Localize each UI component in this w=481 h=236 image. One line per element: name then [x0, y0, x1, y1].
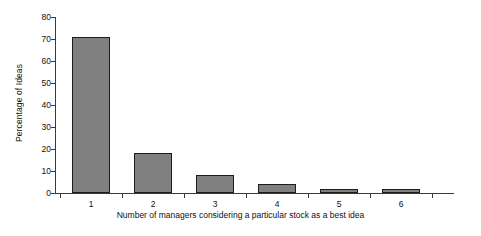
bar [258, 184, 296, 193]
x-axis-tick-label: 3 [213, 200, 218, 209]
y-axis-tick-mark [51, 105, 55, 106]
y-axis-tick-label: 40 [42, 101, 51, 110]
bar [382, 189, 420, 193]
x-axis-tick-label: 1 [89, 200, 94, 209]
y-axis-tick-mark [51, 39, 55, 40]
x-axis-tick-mark [246, 194, 247, 198]
y-axis-tick-mark [51, 193, 55, 194]
x-axis-title-text: Number of managers considering a particu… [117, 210, 365, 220]
x-axis-tick-mark [370, 194, 371, 198]
x-axis-tick-label: 2 [151, 200, 156, 209]
bar [72, 37, 110, 193]
y-axis-tick-label: 30 [42, 123, 51, 132]
x-axis-tick-mark [60, 194, 61, 198]
y-axis-tick-label: 10 [42, 167, 51, 176]
plot-area: 01020304050607080 123456 [55, 17, 454, 194]
y-axis-tick-mark [51, 83, 55, 84]
y-axis-tick-mark [51, 17, 55, 18]
x-axis-line [55, 193, 454, 194]
bar-chart-figure: Percentage of Ideas 01020304050607080 12… [0, 0, 481, 236]
y-axis-tick-label: 0 [46, 189, 51, 198]
bar [196, 175, 234, 193]
y-axis-title: Percentage of Ideas [10, 0, 28, 205]
x-axis-tick-mark [432, 194, 433, 198]
y-axis-tick-mark [51, 149, 55, 150]
y-axis-line [55, 17, 56, 194]
y-axis-tick-label: 50 [42, 79, 51, 88]
y-axis-tick-mark [51, 61, 55, 62]
bar [320, 189, 358, 193]
y-axis-tick-mark [51, 127, 55, 128]
y-axis-tick-mark [51, 171, 55, 172]
bar [134, 153, 172, 193]
x-axis-tick-label: 6 [399, 200, 404, 209]
x-axis-tick-mark [184, 194, 185, 198]
x-axis-title: Number of managers considering a particu… [0, 211, 481, 220]
y-axis-tick-label: 20 [42, 145, 51, 154]
y-axis-tick-label: 60 [42, 57, 51, 66]
x-axis-tick-label: 4 [275, 200, 280, 209]
x-axis-tick-mark [308, 194, 309, 198]
y-axis-title-text: Percentage of Ideas [14, 64, 24, 142]
x-axis-tick-mark [122, 194, 123, 198]
y-axis-tick-label: 80 [42, 13, 51, 22]
y-axis-tick-label: 70 [42, 35, 51, 44]
x-axis-tick-label: 5 [337, 200, 342, 209]
